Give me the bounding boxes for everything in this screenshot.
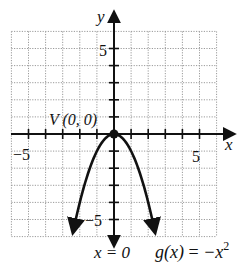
vertex-label: V (0, 0)	[49, 111, 97, 129]
vertex-label-text: V (0, 0)	[49, 111, 97, 129]
function-label: g(x) = −x2	[155, 239, 229, 263]
function-equals: =	[184, 242, 203, 262]
function-rhs: −x	[203, 242, 223, 262]
vertex-point	[110, 130, 119, 139]
tick-label-y-neg: −5	[85, 212, 102, 229]
axis-of-symmetry-label: x = 0	[93, 243, 131, 262]
parabola-graph: y x 5 −5 −5 5 V (0, 0) x = 0 g(x) = −x2	[0, 0, 250, 269]
tick-label-y-pos: 5	[99, 42, 107, 59]
axes	[11, 12, 234, 246]
tick-label-x-neg: −5	[13, 146, 30, 163]
y-axis-label: y	[95, 7, 105, 26]
x-axis-label: x	[224, 135, 233, 154]
function-exponent: 2	[223, 239, 229, 253]
function-name: g(x)	[155, 242, 184, 263]
tick-label-x-pos: 5	[192, 148, 200, 165]
